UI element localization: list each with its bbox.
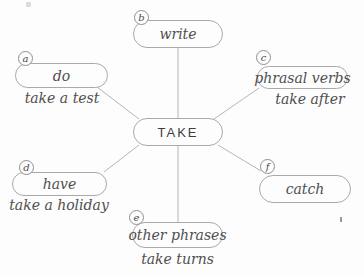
node-do-label: do bbox=[53, 68, 70, 84]
letter-badge-b-text: b bbox=[138, 13, 144, 23]
node-other-phrases-label: other phrases bbox=[128, 227, 226, 243]
node-catch: catch bbox=[259, 175, 351, 203]
connector-c bbox=[214, 88, 259, 119]
node-have-label: have bbox=[43, 176, 77, 192]
node-phrasal-verbs-label: phrasal verbs bbox=[254, 70, 351, 86]
letter-badge-f: f bbox=[260, 159, 275, 174]
node-other-phrases: other phrases bbox=[132, 222, 223, 248]
example-take-after: take after bbox=[262, 91, 358, 107]
node-phrasal-verbs: phrasal verbs bbox=[257, 66, 348, 89]
center-node-take: TAKE bbox=[133, 118, 223, 146]
letter-badge-c-text: c bbox=[261, 53, 267, 63]
letter-badge-d-text: d bbox=[23, 163, 29, 173]
letter-badge-c: c bbox=[256, 50, 271, 65]
letter-badge-d: d bbox=[19, 160, 34, 175]
node-have: have bbox=[12, 172, 107, 196]
letter-badge-a: a bbox=[18, 51, 33, 66]
example-take-a-holiday: take a holiday bbox=[2, 197, 116, 213]
connector-f bbox=[218, 145, 261, 171]
node-write: write bbox=[133, 20, 223, 48]
letter-badge-a-text: a bbox=[23, 54, 29, 64]
letter-badge-b: b bbox=[134, 10, 149, 25]
connector-d bbox=[104, 145, 139, 172]
mind-map-diagram: TAKE do a take a test write b phrasal ve… bbox=[0, 0, 364, 277]
example-take-a-test: take a test bbox=[10, 90, 114, 106]
node-do: do bbox=[15, 63, 108, 88]
center-node-label: TAKE bbox=[158, 125, 199, 140]
letter-badge-f-text: f bbox=[266, 162, 270, 172]
letter-badge-e: e bbox=[129, 210, 144, 225]
example-take-turns: take turns bbox=[130, 251, 225, 267]
letter-badge-e-text: e bbox=[134, 213, 140, 223]
node-catch-label: catch bbox=[286, 181, 325, 197]
node-write-label: write bbox=[159, 26, 196, 42]
